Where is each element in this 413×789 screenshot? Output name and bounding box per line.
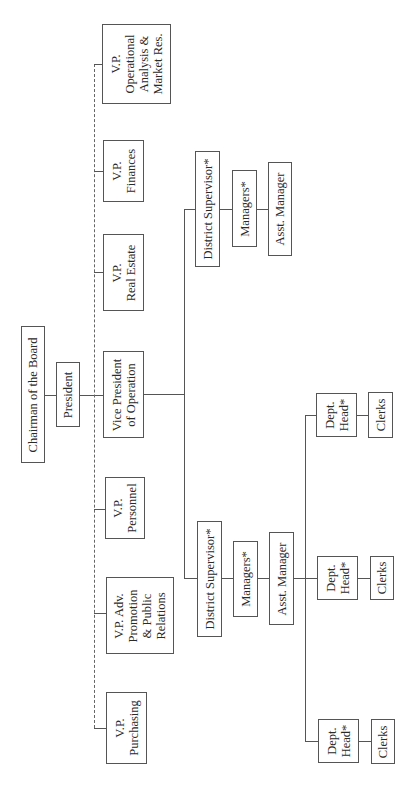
staff-dashed-line	[94, 64, 95, 728]
connector-mgr-left	[222, 578, 233, 579]
connector-clerks-1	[357, 415, 368, 416]
vp-operation-out-connector	[144, 394, 184, 395]
asst-left-out-connector	[294, 578, 305, 579]
node-vp-real-estate: V.P. Real Estate	[103, 234, 144, 311]
node-managers-left: Managers*	[233, 541, 258, 617]
node-dept-head-2: Dept. Head*	[317, 556, 358, 600]
connector-vp-adv	[94, 613, 106, 614]
node-label: Dept. Head*	[324, 562, 352, 595]
president-staff-connector	[80, 395, 103, 396]
node-label: V.P. Finances	[110, 149, 138, 193]
node-dept-head-3: Dept. Head*	[318, 719, 359, 763]
node-vp-adv-promotion: V.P. Adv. Promotion & Public Relations	[106, 577, 174, 654]
node-label: Dept. Head*	[325, 725, 353, 758]
node-label: V.P. Real Estate	[110, 244, 138, 301]
node-label: District Supervisor*	[203, 528, 217, 629]
node-label: V.P. Operational Analysis & Market Res.	[109, 33, 165, 94]
connector-dh-2	[305, 578, 317, 579]
connector-clerks-3	[359, 741, 371, 742]
connector-asst-right	[257, 209, 268, 210]
node-vp-purchasing: V.P. Purchasing	[106, 692, 147, 764]
node-clerks-3: Clerks	[371, 719, 395, 764]
node-vp-operational-analysis: V.P. Operational Analysis & Market Res.	[102, 24, 171, 104]
node-label: V.P. Adv. Promotion & Public Relations	[112, 589, 168, 642]
node-label: Clerks	[376, 725, 390, 758]
node-president: President	[56, 362, 80, 427]
node-label: Chairman of the Board	[26, 337, 40, 452]
node-label: Clerks	[374, 399, 388, 432]
node-label: Clerks	[375, 562, 389, 595]
connector-vp-operational	[94, 64, 102, 65]
node-managers-right: Managers*	[232, 170, 257, 247]
node-label: District Supervisor*	[201, 158, 215, 259]
node-label: Asst. Manager	[275, 542, 289, 615]
node-district-supervisor-left: District Supervisor*	[197, 521, 222, 637]
district-vertical-line	[184, 209, 185, 579]
node-clerks-1: Clerks	[368, 392, 393, 438]
chairman-president-connector	[45, 395, 56, 396]
node-vp-finances: V.P. Finances	[103, 140, 144, 202]
connector-vp-finances	[94, 171, 103, 172]
connector-vp-purchasing	[94, 728, 106, 729]
node-vp-personnel: V.P. Personnel	[105, 477, 145, 539]
connector-ds-left	[184, 578, 197, 579]
connector-dh-3	[305, 741, 318, 742]
node-label: V.P. Personnel	[111, 483, 139, 532]
connector-clerks-2	[358, 578, 370, 579]
node-label: President	[61, 371, 75, 418]
node-asst-manager-right: Asst. Manager	[268, 162, 292, 256]
node-label: Vice President of Operation	[110, 358, 138, 431]
connector-vp-personnel	[94, 509, 105, 510]
node-label: Managers*	[238, 181, 252, 237]
node-clerks-2: Clerks	[370, 556, 394, 600]
connector-mgr-right	[220, 209, 232, 210]
connector-dh-1	[305, 415, 316, 416]
node-dept-head-1: Dept. Head*	[316, 393, 357, 437]
node-asst-manager-left: Asst. Manager	[269, 532, 294, 625]
connector-asst-left	[258, 578, 269, 579]
node-label: V.P. Purchasing	[113, 700, 141, 756]
node-district-supervisor-right: District Supervisor*	[195, 151, 220, 267]
node-label: Asst. Manager	[273, 173, 287, 246]
node-chairman: Chairman of the Board	[21, 326, 45, 463]
connector-ds-right	[184, 209, 195, 210]
node-vp-operation: Vice President of Operation	[103, 351, 144, 438]
connector-vp-real-estate	[94, 272, 103, 273]
node-label: Dept. Head*	[323, 399, 351, 432]
node-label: Managers*	[239, 551, 253, 607]
